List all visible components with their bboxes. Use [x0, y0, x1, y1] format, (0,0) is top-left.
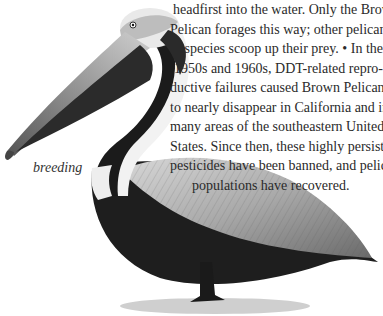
text-line: species scoop up their prey. • In the	[170, 39, 383, 59]
text-line: pesticides have been banned, and pelican	[170, 156, 383, 176]
field-guide-page: headfirst into the water. Only the Brown…	[0, 0, 383, 316]
text-line: many areas of the southeastern United	[170, 117, 383, 137]
text-line: to nearly disappear in California and in	[170, 98, 383, 118]
text-line: 1950s and 1960s, DDT-related repro-	[170, 59, 383, 79]
illustration-caption: breeding	[33, 160, 82, 176]
text-line: headfirst into the water. Only the Brown	[170, 0, 383, 20]
text-line: States. Since then, these highly persist…	[170, 137, 383, 157]
text-line: ductive failures caused Brown Pelicans	[170, 78, 383, 98]
text-line: populations have recovered.	[170, 176, 383, 196]
text-line: Pelican forages this way; other pelican	[170, 20, 383, 40]
species-description: headfirst into the water. Only the Brown…	[170, 0, 383, 195]
